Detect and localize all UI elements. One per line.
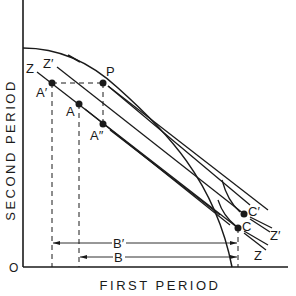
arrowhead-b-left [80,255,87,259]
label-b-prime: B′ [113,236,125,251]
label-z-prime-left: Z′ [43,56,54,71]
point-c [235,225,242,232]
indifference-curve-c-prime [222,180,240,212]
x-axis-label: FIRST PERIOD [100,278,221,293]
point-p [100,80,107,87]
arrowhead-b-prime-right [230,241,237,245]
point-a [76,101,83,108]
label-a: A [66,104,75,119]
intertemporal-diagram: P A′ A A″ C′ C Z Z′ Z′ Z B′ B O FIRST PE… [0,0,296,296]
line-z-prime [57,67,244,214]
y-axis-label: SECOND PERIOD [3,79,18,221]
line-a-lower [110,130,220,215]
dashed-guides [52,83,238,267]
label-p: P [106,64,115,79]
label-a-double-prime: A″ [90,128,104,143]
line-z [37,72,238,228]
point-a-prime [49,80,56,87]
arrowhead-b-right [230,255,237,259]
points [49,80,248,232]
market-lines [37,67,272,250]
label-a-prime: A′ [36,85,48,100]
label-b: B [114,250,123,265]
arrowhead-b-prime-left [53,241,60,245]
curve-arrow-mark [68,55,80,62]
point-c-prime [241,211,248,218]
label-c-prime: C′ [248,204,260,219]
label-c: C [242,219,251,234]
label-z-left: Z [26,61,34,76]
origin-label: O [9,261,18,275]
measures [53,241,237,259]
point-a-double-prime [100,121,107,128]
label-z-right: Z [254,248,262,263]
label-z-prime-right: Z′ [270,228,281,243]
